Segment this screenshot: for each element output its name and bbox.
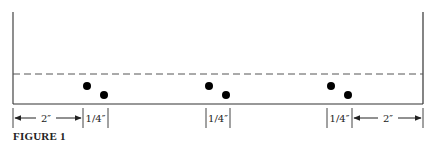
figure-caption: FIGURE 1 [13,130,66,142]
dot [222,91,230,99]
dot [83,82,91,90]
dot [344,91,352,99]
left-gap-label: 1/4″ [86,113,106,124]
dot [327,82,335,90]
right-gap-label: 1/4″ [330,113,350,124]
dot-pair-middle [205,82,230,99]
figure-diagram: 2″ 1/4″ 1/4″ 1/4″ 2″ [0,0,435,145]
dot-pair-right [327,82,352,99]
left-span-dimension: 2″ [15,113,81,124]
dot [205,82,213,90]
left-span-label: 2″ [41,113,51,124]
middle-gap-label: 1/4″ [208,113,228,124]
dot [100,91,108,99]
right-span-dimension: 2″ [354,113,421,124]
dot-pair-left [83,82,108,99]
right-span-label: 2″ [383,113,393,124]
